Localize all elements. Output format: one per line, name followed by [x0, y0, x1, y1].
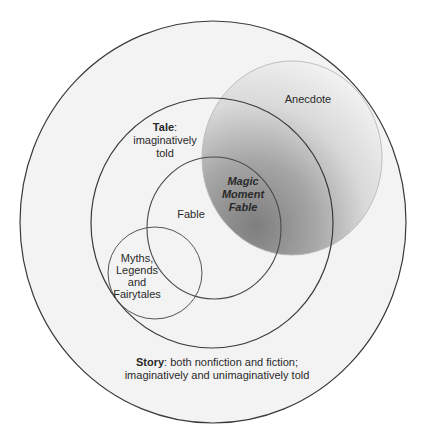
magic-moment-line2: Moment	[222, 188, 266, 200]
myths-label-line2: Legends	[116, 264, 159, 276]
magic-moment-line3: Fable	[229, 201, 258, 213]
anecdote-circle	[202, 61, 382, 255]
story-label-bold: Story	[136, 356, 165, 368]
fable-label: Fable	[177, 208, 205, 220]
myths-label-line4: Fairytales	[113, 288, 161, 300]
myths-label-line3: and	[128, 276, 146, 288]
magic-moment-line1: Magic	[227, 175, 258, 187]
anecdote-label: Anecdote	[285, 93, 331, 105]
tale-label-bold: Tale	[153, 121, 174, 133]
story-label-line2: imaginatively and unimaginatively told	[125, 369, 310, 381]
story-label: Story: both nonfiction and fiction;	[136, 356, 298, 368]
tale-label-line2: imaginatively	[133, 134, 197, 146]
tale-label: Tale:	[153, 121, 177, 133]
tale-label-line3: told	[156, 147, 174, 159]
story-label-rest: : both nonfiction and fiction;	[164, 356, 298, 368]
tale-label-rest: :	[174, 121, 177, 133]
myths-label-line1: Myths,	[121, 252, 153, 264]
story-euler-diagram: Anecdote Tale: imaginatively told Magic …	[0, 0, 423, 438]
